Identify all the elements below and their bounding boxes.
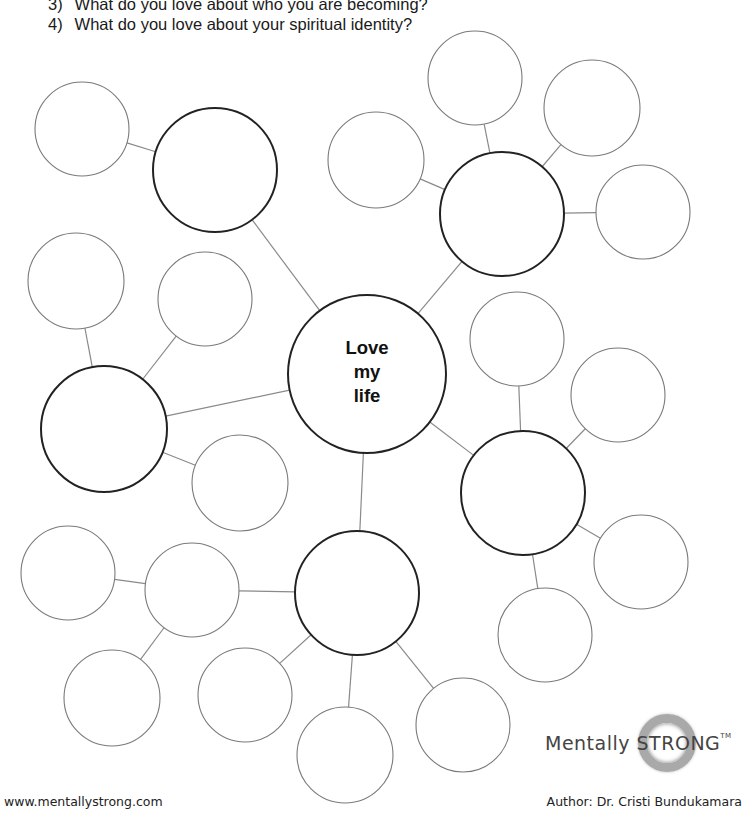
hub-bubble-left[interactable]: [41, 366, 167, 492]
satellite-bubble[interactable]: [192, 435, 288, 531]
center-label-line3: life: [307, 384, 427, 408]
connector-line: [430, 422, 474, 455]
satellite-bubble[interactable]: [544, 60, 640, 156]
center-label: Love my life: [307, 336, 427, 408]
connector-line: [239, 591, 295, 592]
connector-line: [127, 143, 156, 152]
satellite-bubble[interactable]: [416, 678, 510, 772]
connector-line: [542, 145, 561, 167]
connector-line: [577, 524, 601, 538]
connector-line: [360, 453, 364, 531]
satellite-bubble[interactable]: [470, 292, 564, 386]
connector-line: [141, 628, 164, 660]
satellite-bubble[interactable]: [328, 112, 424, 208]
connector-line: [532, 554, 537, 588]
connector-line: [115, 579, 146, 583]
mentally-strong-logo: Mentally STRONGTM: [603, 712, 743, 792]
satellite-bubble[interactable]: [596, 165, 690, 259]
satellite-bubble[interactable]: [198, 648, 292, 742]
connector-line: [396, 641, 434, 688]
satellite-bubble[interactable]: [594, 515, 688, 609]
satellite-bubble[interactable]: [64, 650, 160, 746]
center-label-line2: my: [307, 360, 427, 384]
satellite-bubble[interactable]: [145, 543, 239, 637]
connector-line: [143, 336, 177, 379]
website-url[interactable]: www.mentallystrong.com: [4, 794, 163, 809]
hub-bubble-top-right[interactable]: [440, 152, 564, 276]
satellite-bubble[interactable]: [428, 31, 522, 125]
center-label-line1: Love: [307, 336, 427, 360]
connector-line: [566, 429, 585, 449]
connector-line: [519, 386, 521, 431]
connector-line: [166, 390, 290, 416]
hub-bubble-right[interactable]: [461, 431, 585, 555]
logo-text: Mentally STRONGTM: [545, 732, 732, 754]
connector-line: [484, 124, 490, 153]
satellite-bubble[interactable]: [571, 348, 665, 442]
satellite-bubble[interactable]: [21, 526, 115, 620]
satellite-bubble[interactable]: [297, 707, 393, 803]
satellite-bubble[interactable]: [28, 233, 124, 329]
connector-line: [280, 635, 311, 664]
connector-line: [420, 179, 445, 190]
satellite-bubble[interactable]: [158, 252, 252, 346]
connector-line: [418, 261, 462, 313]
author-credit: Author: Dr. Cristi Bundukamara: [547, 794, 742, 809]
hub-bubble-top-left[interactable]: [153, 108, 277, 232]
connector-line: [163, 452, 196, 465]
connector-line: [252, 220, 320, 311]
hub-bubble-bottom[interactable]: [295, 531, 419, 655]
satellite-bubble[interactable]: [498, 588, 592, 682]
connector-line: [349, 655, 353, 707]
connector-line: [85, 328, 92, 367]
satellite-bubble[interactable]: [35, 82, 129, 176]
